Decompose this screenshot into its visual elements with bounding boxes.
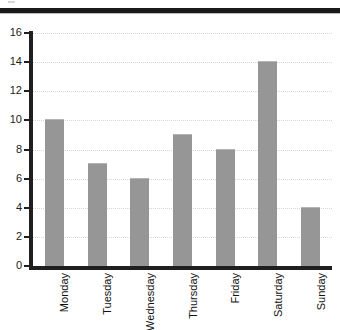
- y-axis-tick: [24, 149, 30, 151]
- y-axis-tick: [24, 61, 30, 63]
- x-axis-label: Wednesday: [145, 273, 156, 330]
- x-axis-label: Tuesday: [102, 273, 113, 315]
- y-axis-label: 2: [2, 231, 22, 242]
- y-axis-tick: [24, 265, 30, 267]
- x-axis-label: Thursday: [188, 273, 199, 319]
- y-axis-label: 8: [2, 144, 22, 155]
- y-axis-tick: [24, 32, 30, 34]
- y-axis-label: 4: [2, 202, 22, 213]
- y-axis-label: 14: [2, 56, 22, 67]
- bar[interactable]: [216, 149, 235, 267]
- y-axis-tick: [24, 236, 30, 238]
- bar-chart-page: 0246810121416 MondayTuesdayWednesdayThur…: [0, 0, 340, 330]
- y-axis-label: 6: [2, 173, 22, 184]
- bar[interactable]: [301, 207, 320, 266]
- y-axis-label: 0: [2, 260, 22, 271]
- x-axis-label: Sunday: [316, 273, 327, 310]
- y-axis-tick: [24, 207, 30, 209]
- bars-group: [33, 33, 332, 266]
- y-axis-label: 12: [2, 85, 22, 96]
- y-axis-tick: [24, 119, 30, 121]
- x-axis-label: Saturday: [273, 273, 284, 317]
- bar[interactable]: [130, 178, 149, 266]
- x-axis-label: Monday: [59, 273, 70, 312]
- x-axis-label: Friday: [230, 273, 241, 304]
- y-axis-tick: [24, 178, 30, 180]
- y-axis-label: 16: [2, 27, 22, 38]
- chart-area: 0246810121416 MondayTuesdayWednesdayThur…: [0, 0, 340, 330]
- bar[interactable]: [45, 119, 64, 266]
- y-axis-label: 10: [2, 114, 22, 125]
- bar[interactable]: [173, 134, 192, 266]
- x-axis-line: [29, 266, 332, 270]
- y-axis-tick: [24, 90, 30, 92]
- bar[interactable]: [88, 163, 107, 266]
- bar[interactable]: [258, 61, 277, 266]
